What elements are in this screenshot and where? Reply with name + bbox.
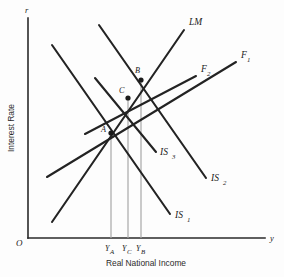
curve-label-f2-subscript: 2 — [207, 70, 211, 77]
point-b-marker — [138, 77, 143, 82]
curve-label-is2: IS — [210, 173, 219, 183]
diagram-canvas: r y O Interest Rate Real National Income… — [0, 0, 284, 277]
curve-label-f2: F — [200, 64, 207, 74]
tick-label-ya-subscript: A — [109, 248, 115, 255]
origin-label: O — [16, 238, 23, 248]
point-a-marker — [108, 130, 113, 135]
curve-label-is3-subscript: 3 — [171, 153, 176, 160]
curve-label-is3: IS — [159, 147, 168, 157]
point-label-b: B — [135, 66, 140, 75]
y-axis-variable-label: r — [25, 5, 29, 15]
point-c-marker — [125, 95, 130, 100]
y-axis-title: Interest Rate — [6, 104, 16, 152]
x-axis-variable-label: y — [269, 233, 274, 243]
point-label-a: A — [100, 125, 107, 134]
tick-label-yc-subscript: C — [127, 248, 132, 255]
curve-label-is2-subscript: 2 — [223, 179, 227, 186]
curve-label-is1: IS — [174, 210, 183, 220]
curve-label-f1-subscript: 1 — [247, 56, 250, 63]
tick-label-yb-subscript: B — [141, 248, 145, 255]
curve-lm — [52, 30, 184, 222]
curve-label-f1: F — [240, 50, 247, 60]
curve-label-is1-subscript: 1 — [187, 216, 190, 223]
curve-label-lm: LM — [188, 17, 203, 27]
x-axis-title: Real National Income — [106, 258, 186, 268]
point-label-c: C — [119, 86, 125, 95]
is-lm-diagram: r y O Interest Rate Real National Income… — [0, 0, 284, 277]
